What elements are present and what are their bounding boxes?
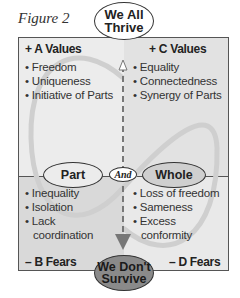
b-fears-list: • Inequality • Isolation • Lack coordina… [25, 186, 93, 242]
list-item: • Connectedness [133, 74, 222, 88]
list-item: • Uniqueness [25, 74, 113, 88]
list-item: • Isolation [25, 200, 93, 214]
we-dont-survive-node: We Don'tSurvive [94, 255, 154, 291]
figure-title: Figure 2 [18, 10, 70, 27]
d-fears-list: • Loss of freedom • Sameness • Excess co… [133, 186, 219, 242]
c-values-heading: + C Values [149, 42, 206, 56]
c-values-list: • Equality • Connectedness • Synergy of … [133, 60, 222, 102]
d-fears-heading: – D Fears [169, 255, 220, 269]
list-item: • Lack [25, 214, 93, 228]
a-values-list: • Freedom • Uniqueness • Initiative of P… [25, 60, 113, 102]
whole-node: Whole [142, 162, 206, 188]
we-all-thrive-node: We AllThrive [94, 2, 154, 40]
list-item: • Initiative of Parts [25, 88, 113, 102]
and-connector: And [109, 167, 137, 182]
list-item: • Loss of freedom [133, 186, 219, 200]
list-item: • Sameness [133, 200, 219, 214]
b-fears-heading: – B Fears [25, 255, 76, 269]
list-item: • Inequality [25, 186, 93, 200]
list-item: • Equality [133, 60, 222, 74]
a-values-heading: + A Values [25, 42, 81, 56]
list-item-continuation: conformity [133, 228, 219, 242]
list-item: • Excess [133, 214, 219, 228]
list-item: • Synergy of Parts [133, 88, 222, 102]
polarity-map: + A Values • Freedom • Uniqueness • Init… [18, 37, 229, 271]
list-item-continuation: coordination [25, 228, 93, 242]
part-node: Part [43, 162, 103, 188]
list-item: • Freedom [25, 60, 113, 74]
arrow-down-icon [115, 234, 131, 250]
